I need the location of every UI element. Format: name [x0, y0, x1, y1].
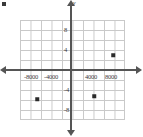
x-axis-right-arrow-icon — [136, 66, 142, 74]
data-point — [92, 94, 96, 98]
x-tick-label: -8000 — [24, 73, 38, 81]
x-tick-label: 4000 — [85, 73, 97, 81]
y-tick-label: -8 — [64, 106, 69, 114]
corner-marker — [2, 2, 6, 6]
x-axis-left-arrow-icon — [0, 66, 6, 74]
y-axis-title: y — [73, 0, 76, 7]
y-tick-label: 4 — [64, 46, 67, 54]
scatter-plot-figure: y -8000-400040008000 84-4-8 — [0, 0, 143, 137]
x-tick-label: 8000 — [105, 73, 117, 81]
x-tick-label: -4000 — [44, 73, 58, 81]
data-point — [111, 53, 115, 57]
y-tick-label: 8 — [64, 26, 67, 34]
y-axis-down-arrow-icon — [67, 130, 75, 136]
data-point — [35, 97, 39, 101]
y-axis — [70, 5, 72, 132]
y-tick-label: -4 — [64, 86, 69, 94]
